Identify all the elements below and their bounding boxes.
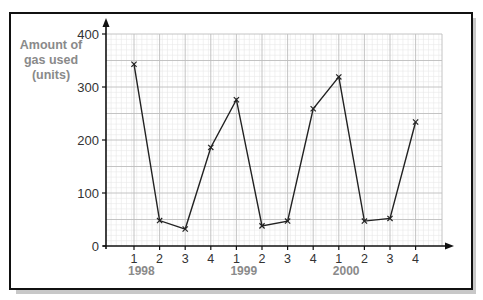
x-tick-label: 2 (361, 252, 368, 266)
y-tick-label: 0 (92, 239, 99, 254)
x-tick-label: 3 (387, 252, 394, 266)
x-tick-label: 4 (310, 252, 317, 266)
y-tick-label: 100 (77, 186, 99, 201)
axes (103, 18, 455, 250)
y-tick-label: 400 (77, 27, 99, 42)
year-label: 1999 (230, 264, 257, 278)
x-tick-label: 4 (412, 252, 419, 266)
y-axis-arrow-icon (103, 18, 110, 27)
year-label: 2000 (333, 264, 360, 278)
y-axis-ticks: 0100200300400 (77, 27, 106, 254)
x-axis-ticks: 123412341234199819992000 (128, 246, 419, 278)
x-tick-label: 2 (259, 252, 266, 266)
y-tick-label: 300 (77, 80, 99, 95)
year-label: 1998 (128, 264, 155, 278)
x-tick-label: 2 (156, 252, 163, 266)
x-axis-arrow-icon (445, 243, 454, 250)
line-chart: 0100200300400 123412341234199819992000 (0, 0, 483, 300)
y-tick-label: 200 (77, 133, 99, 148)
x-tick-label: 3 (182, 252, 189, 266)
x-tick-label: 3 (284, 252, 291, 266)
x-tick-label: 4 (207, 252, 214, 266)
